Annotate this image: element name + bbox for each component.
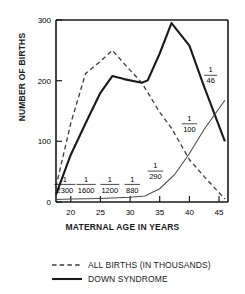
legend-label-all-births: ALL BIRTHS (IN THOUSANDS) [88,260,211,270]
svg-text:1200: 1200 [101,186,118,195]
series-down-syndrome-line [56,23,225,195]
x-axis-title: MATERNAL AGE IN YEARS [0,222,245,232]
annotation-1-1200: 1 1200 [100,175,119,195]
y-tick-300: 300 [38,16,52,25]
dashed-line-swatch-icon [52,260,82,270]
annotation-1-290: 1 290 [148,161,164,181]
legend-item-all-births: ALL BIRTHS (IN THOUSANDS) [0,258,245,272]
svg-text:1: 1 [209,65,213,74]
x-tick-30: 30 [126,208,135,217]
annotation-1-2300: 1 2300 [54,175,75,195]
chart-figure: 300 200 100 0 20 25 30 35 40 45 1 2300 1 [0,0,245,294]
svg-text:46: 46 [207,76,215,85]
svg-text:1: 1 [153,161,157,170]
rate-annotations: 1 2300 1 1600 1 1200 1 880 1 [54,65,217,194]
x-tick-45: 45 [215,208,224,217]
annotation-1-880: 1 880 [125,175,140,195]
y-tick-labels: 300 200 100 0 [38,16,52,207]
chart-plot-area: 300 200 100 0 20 25 30 35 40 45 1 2300 1 [0,0,245,225]
x-tick-40: 40 [185,208,194,217]
svg-text:290: 290 [149,172,162,181]
legend-item-down-syndrome: DOWN SYNDROME [0,272,245,286]
y-tick-0: 0 [47,198,52,207]
x-tick-25: 25 [96,208,105,217]
legend-label-down-syndrome: DOWN SYNDROME [88,274,168,284]
svg-text:880: 880 [126,186,139,195]
x-tick-20: 20 [66,208,75,217]
chart-legend: ALL BIRTHS (IN THOUSANDS) DOWN SYNDROME [0,258,245,286]
annotation-1-100: 1 100 [182,114,197,134]
svg-text:1: 1 [187,114,191,123]
y-tick-100: 100 [38,137,52,146]
solid-line-swatch-icon [52,274,82,284]
y-axis-ticks [56,20,62,202]
plot-frame [56,20,228,202]
y-tick-200: 200 [38,77,52,86]
svg-text:2300: 2300 [57,186,74,195]
x-tick-35: 35 [155,208,164,217]
y-axis-title: NUMBER OF BIRTHS [17,17,27,137]
svg-text:1: 1 [108,175,112,184]
annotation-1-1600: 1 1600 [77,175,96,195]
svg-text:100: 100 [183,125,196,134]
x-tick-labels: 20 25 30 35 40 45 [66,208,224,217]
svg-text:1600: 1600 [78,186,95,195]
svg-text:1: 1 [130,175,134,184]
svg-text:1: 1 [63,175,67,184]
svg-text:1: 1 [84,175,88,184]
annotation-1-46: 1 46 [204,65,217,85]
